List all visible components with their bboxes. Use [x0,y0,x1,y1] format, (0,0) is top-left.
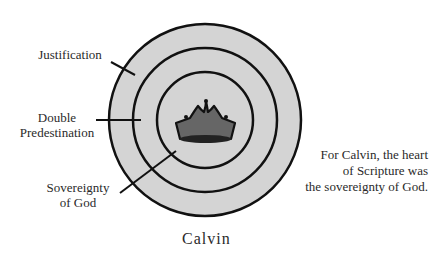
label-sovereignty-of-god: Sovereignty of God [38,180,118,210]
note-line2: of Scripture was [292,163,428,179]
note-line1: For Calvin, the heart [292,147,428,163]
calvin-diagram: Justification Double Predestination Sove… [0,0,448,258]
diagram-title: Calvin [182,230,231,248]
label-sov-line1: Sovereignty [38,180,118,195]
label-justification: Justification [30,47,110,62]
explanatory-note: For Calvin, the heart of Scripture was t… [292,147,428,195]
label-double-line2: Predestination [12,125,102,140]
label-sov-line2: of God [38,195,118,210]
note-line3: the sovereignty of God. [292,179,428,195]
label-double-predestination: Double Predestination [12,110,102,140]
label-double-line1: Double [12,110,102,125]
